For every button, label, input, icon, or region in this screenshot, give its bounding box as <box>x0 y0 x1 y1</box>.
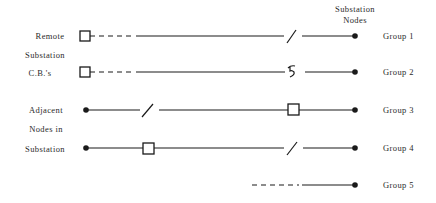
substation-node-icon <box>352 145 358 151</box>
remote-label-line1: Remote <box>36 31 65 41</box>
substation-node-icon <box>352 33 358 39</box>
remote-label-line2: Substation <box>25 50 65 60</box>
group-2-label: Group 2 <box>383 67 414 77</box>
open-switch-icon <box>142 104 153 117</box>
group-5-line: Group 5 <box>252 180 414 190</box>
group-4-line: Group 4 <box>83 142 414 155</box>
group-2-line: Group 2 <box>80 66 414 77</box>
circuit-breaker-icon <box>80 31 90 41</box>
group-3-label: Group 3 <box>383 105 414 115</box>
substation-groups-diagram: Substation Nodes Remote Substation C.B.'… <box>0 0 436 203</box>
circuit-breaker-icon <box>80 67 90 77</box>
adjacent-label-line2: Nodes in <box>29 124 63 134</box>
group-3-line: Group 3 <box>83 104 414 117</box>
open-switch-icon <box>287 30 296 43</box>
circuit-breaker-icon <box>143 143 154 154</box>
substation-node-icon <box>352 107 358 113</box>
group-1-label: Group 1 <box>383 31 414 41</box>
adjacent-label-line1: Adjacent <box>29 105 63 115</box>
fault-symbol-icon <box>288 66 295 77</box>
substation-node-icon <box>352 182 358 188</box>
remote-label-line3: C.B.'s <box>29 68 52 78</box>
circuit-breaker-icon <box>288 104 299 115</box>
group-5-label: Group 5 <box>383 180 414 190</box>
adjacent-label-line3: Substation <box>25 144 65 154</box>
group-1-line: Group 1 <box>80 30 414 43</box>
open-switch-icon <box>287 142 297 155</box>
substation-nodes-header-line1: Substation <box>335 4 375 14</box>
substation-nodes-header-line2: Nodes <box>343 15 367 25</box>
substation-node-icon <box>352 69 358 75</box>
group-4-label: Group 4 <box>383 143 414 153</box>
